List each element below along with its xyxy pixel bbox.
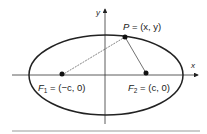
point-p-label: P = (x, y)	[123, 21, 161, 32]
focus-1-point	[60, 72, 65, 77]
segment-f1-p	[62, 37, 125, 75]
point-p-eq: = (x, y)	[129, 21, 161, 32]
focus-2-point	[144, 71, 149, 76]
focus-2-label: F2 = (c, 0)	[128, 82, 170, 94]
ellipse-diagram: y x P = (x, y) F1 = (−c, 0) F2 = (c, 0)	[0, 0, 207, 134]
point-p	[123, 35, 128, 40]
x-axis-label: x	[190, 61, 196, 70]
focus-1-eq: = (−c, 0)	[47, 82, 85, 93]
segment-f2-p	[125, 37, 146, 73]
focus-2-eq: = (c, 0)	[137, 82, 169, 93]
focus-1-label: F1 = (−c, 0)	[38, 82, 85, 94]
y-axis-label: y	[95, 8, 101, 17]
